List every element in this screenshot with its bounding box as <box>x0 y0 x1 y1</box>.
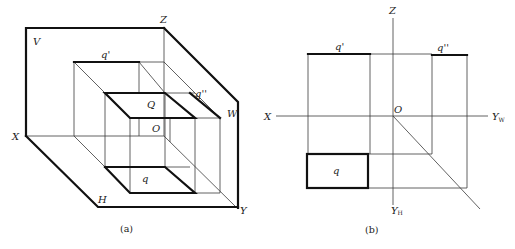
label-z: Z <box>159 14 168 25</box>
label-v: V <box>33 36 42 47</box>
label-q-double-prime: q'' <box>437 42 449 53</box>
caption-b: (b) <box>365 224 379 235</box>
label-Q: Q <box>147 99 155 110</box>
figure-a-pictorial: V Z q' q'' Q O W X q H Y (a) <box>11 14 248 234</box>
figure-b-orthographic: Z q' q'' X O YW q YH (b) <box>263 5 506 235</box>
q-plane-outline <box>105 167 195 193</box>
label-o: O <box>152 123 160 134</box>
label-q-prime: q' <box>101 49 110 60</box>
label-z: Z <box>388 5 397 16</box>
label-x: X <box>11 131 20 142</box>
label-h: H <box>97 194 107 205</box>
label-y-h: YH <box>391 205 403 216</box>
label-q: q <box>142 173 148 184</box>
label-q: q <box>333 165 339 176</box>
caption-a: (a) <box>120 223 133 234</box>
label-x: X <box>263 111 272 122</box>
label-o: O <box>394 104 402 115</box>
figure-b-projections <box>307 54 467 188</box>
label-q-double-prime: q'' <box>195 88 207 99</box>
v-plane-outline <box>26 28 164 136</box>
label-y: Y <box>240 205 248 216</box>
projection-diagram: V Z q' q'' Q O W X q H Y (a) <box>0 0 515 249</box>
label-q-prime: q' <box>335 41 344 52</box>
h-plane-outline <box>26 136 238 207</box>
label-y-w: YW <box>492 111 506 123</box>
label-w: W <box>227 108 238 119</box>
